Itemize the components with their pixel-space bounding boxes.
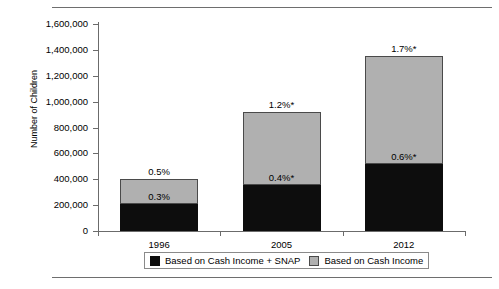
bar-segment-cash-income-plus-snap[interactable] — [243, 185, 321, 231]
y-axis-tick — [93, 102, 98, 103]
y-axis-tick — [93, 50, 98, 51]
legend-label-cash-income: Based on Cash Income — [324, 255, 423, 266]
y-axis-tick-label: 1,200,000 — [0, 71, 88, 81]
y-axis-tick-label: 1,000,000 — [0, 97, 88, 107]
bar-stack[interactable] — [120, 179, 198, 231]
x-axis-tick-label: 2012 — [364, 239, 444, 250]
bar-total-label: 0.5% — [119, 166, 199, 177]
bar-segment-label: 0.3% — [119, 191, 199, 202]
y-axis-line — [98, 22, 99, 233]
x-axis-tick — [98, 231, 99, 236]
bar-stack[interactable] — [365, 56, 443, 231]
x-axis-tick-label: 1996 — [119, 239, 199, 250]
y-axis-tick-label: 800,000 — [0, 123, 88, 133]
y-axis-tick — [93, 128, 98, 129]
y-axis-tick-label: 600,000 — [0, 148, 88, 158]
x-axis-tick-label: 2005 — [242, 239, 322, 250]
bar-segment-label: 0.6%* — [364, 151, 444, 162]
chart-legend: Based on Cash Income + SNAP Based on Cas… — [144, 252, 429, 269]
top-divider-rule — [52, 7, 492, 8]
y-axis-tick-label: 400,000 — [0, 174, 88, 184]
y-axis-tick — [93, 153, 98, 154]
x-axis-tick — [220, 231, 221, 236]
bar-segment-cash-income-plus-snap[interactable] — [120, 204, 198, 231]
x-axis-line — [98, 231, 465, 232]
x-axis-tick — [343, 231, 344, 236]
legend-swatch-gray-icon — [309, 256, 319, 266]
y-axis-tick-label: 0 — [0, 226, 88, 236]
y-axis-tick-label: 1,400,000 — [0, 45, 88, 55]
bar-total-label: 1.7%* — [364, 43, 444, 54]
legend-item-cash-plus-snap[interactable]: Based on Cash Income + SNAP — [150, 255, 300, 266]
y-axis-tick — [93, 205, 98, 206]
y-axis-tick-label: 200,000 — [0, 200, 88, 210]
bar-segment-label: 0.4%* — [242, 172, 322, 183]
legend-label-cash-plus-snap: Based on Cash Income + SNAP — [165, 255, 300, 266]
y-axis-tick — [93, 76, 98, 77]
bar-segment-cash-income[interactable] — [365, 56, 443, 164]
legend-swatch-black-icon — [150, 256, 160, 266]
bar-total-label: 1.2%* — [242, 99, 322, 110]
y-axis-tick — [93, 179, 98, 180]
y-axis-tick-label: 1,600,000 — [0, 19, 88, 29]
x-axis-tick — [465, 231, 466, 236]
legend-item-cash-income[interactable]: Based on Cash Income — [309, 255, 423, 266]
bar-segment-cash-income-plus-snap[interactable] — [365, 164, 443, 231]
chart-figure: Number of Children 0200,000400,000600,00… — [0, 0, 499, 289]
y-axis-tick — [93, 24, 98, 25]
bottom-divider-rule — [52, 277, 492, 278]
